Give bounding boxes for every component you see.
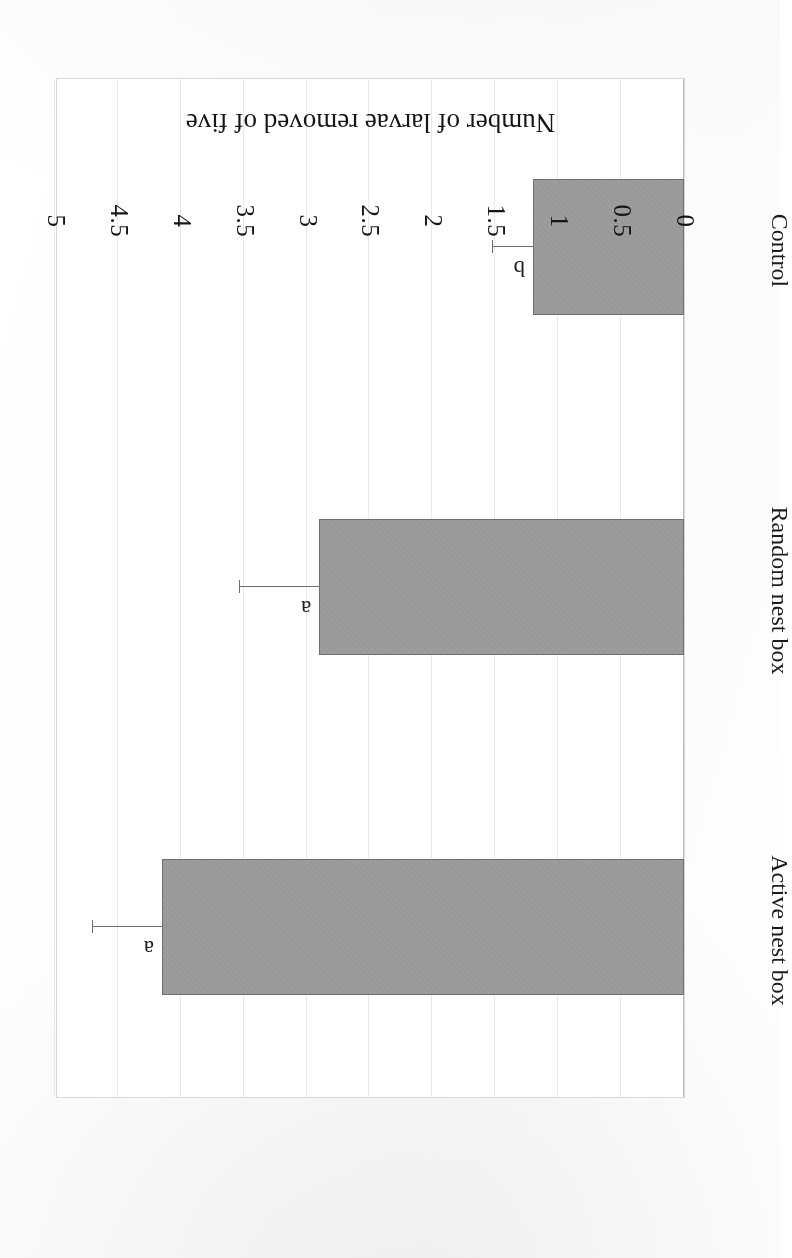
bar-random-nest-box [319, 519, 684, 655]
tick-label-3: 3 [294, 215, 322, 228]
significance-letter: b [514, 255, 526, 281]
significance-letter: a [301, 595, 311, 621]
tick-label-2: 2 [419, 215, 447, 228]
error-bar [240, 586, 319, 587]
category-label-random-nest-box: Random nest box [767, 496, 792, 686]
tick-label-0.5: 0.5 [608, 205, 636, 238]
tick-label-3.5: 3.5 [231, 205, 259, 238]
category-label-control: Control [767, 156, 792, 346]
error-bar [93, 926, 162, 927]
bar-row: a [55, 859, 684, 995]
bar-active-nest-box [162, 859, 684, 995]
tick-label-1.5: 1.5 [482, 205, 510, 238]
error-bar [493, 246, 533, 247]
bar-row: b [55, 179, 684, 315]
tick-label-5: 5 [42, 215, 70, 228]
category-label-active-nest-box: Active nest box [767, 836, 792, 1026]
tick-label-4.5: 4.5 [105, 205, 133, 238]
value-axis-title: Number of larvae removed of five [56, 107, 685, 138]
bar-control [533, 179, 684, 315]
tick-label-4: 4 [168, 215, 196, 228]
tick-label-1: 1 [545, 215, 573, 228]
tick-label-0: 0 [671, 215, 699, 228]
error-bar-cap [492, 240, 493, 253]
significance-letter: a [144, 935, 154, 961]
bar-row: a [55, 519, 684, 655]
tick-label-2.5: 2.5 [357, 205, 385, 238]
error-bar-cap [92, 920, 93, 933]
error-bar-cap [239, 580, 240, 593]
